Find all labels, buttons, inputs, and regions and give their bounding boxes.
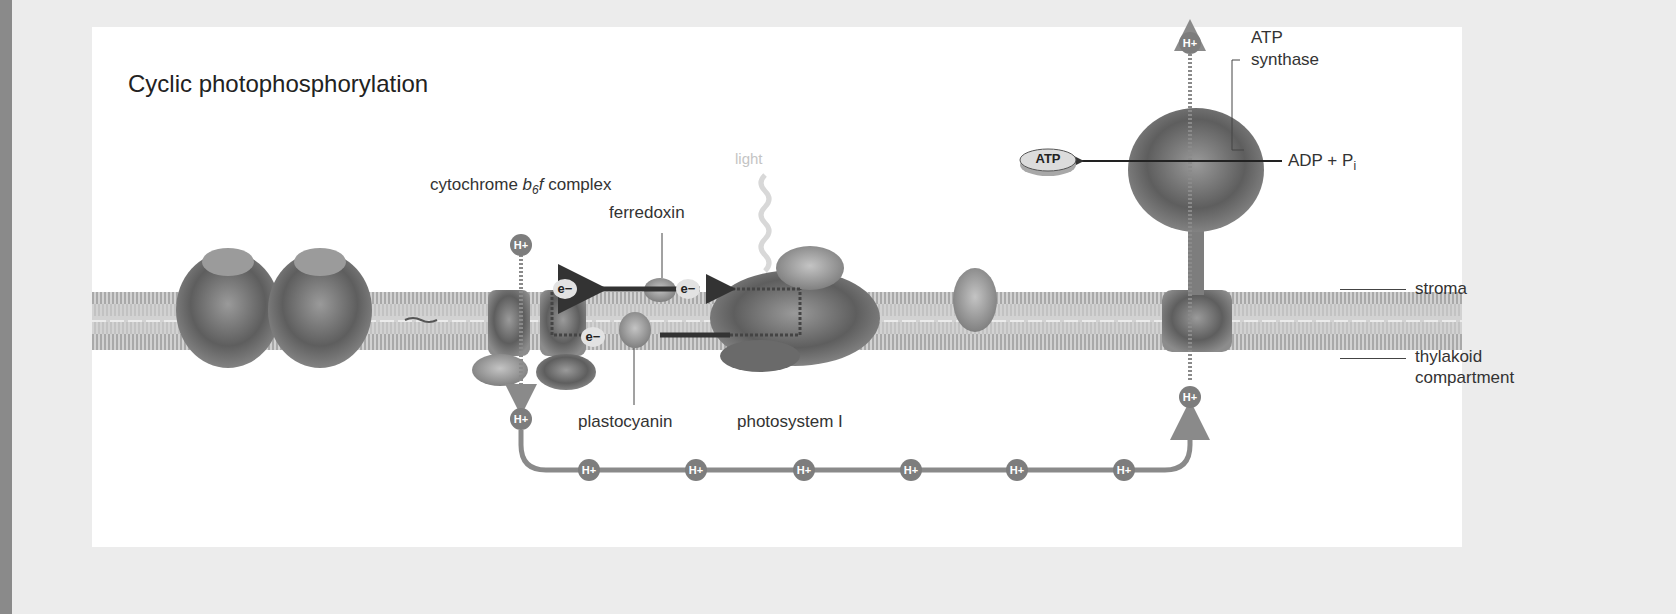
label-light: light bbox=[735, 150, 763, 167]
label-adp-pi: ADP + Pi bbox=[1288, 151, 1356, 173]
label-thylakoid-compartment: thylakoid compartment bbox=[1415, 346, 1514, 388]
label-stroma: stroma bbox=[1415, 279, 1467, 299]
proton-token: H+ bbox=[900, 459, 922, 481]
proton-token: H+ bbox=[1179, 32, 1201, 54]
proton-token: H+ bbox=[793, 459, 815, 481]
label-plastocyanin: plastocyanin bbox=[578, 412, 673, 432]
label-ferredoxin: ferredoxin bbox=[609, 203, 685, 223]
electron-token: e− bbox=[676, 279, 700, 299]
electron-token: e− bbox=[581, 327, 605, 347]
label-photosystem-i: photosystem I bbox=[737, 412, 843, 432]
diagram-canvas bbox=[0, 0, 1676, 614]
proton-token: H+ bbox=[578, 459, 600, 481]
label-cytochrome-b6f: cytochrome b6f complex bbox=[430, 175, 612, 197]
proton-token: H+ bbox=[1006, 459, 1028, 481]
electron-token: e− bbox=[553, 279, 577, 299]
thylakoid-leader bbox=[1340, 358, 1406, 359]
label-atp-synthase: ATP synthase bbox=[1251, 27, 1319, 71]
proton-token: H+ bbox=[510, 408, 532, 430]
proton-token: H+ bbox=[1113, 459, 1135, 481]
plastocyanin-protein bbox=[619, 312, 651, 348]
photosystem-i-protein bbox=[710, 246, 880, 372]
light-wave-icon bbox=[761, 175, 769, 271]
small-stromal-protein bbox=[953, 268, 997, 332]
proton-token: H+ bbox=[510, 234, 532, 256]
label-atp: ATP bbox=[1031, 151, 1065, 166]
proton-token: H+ bbox=[685, 459, 707, 481]
stroma-leader bbox=[1340, 289, 1406, 290]
proton-token: H+ bbox=[1179, 386, 1201, 408]
